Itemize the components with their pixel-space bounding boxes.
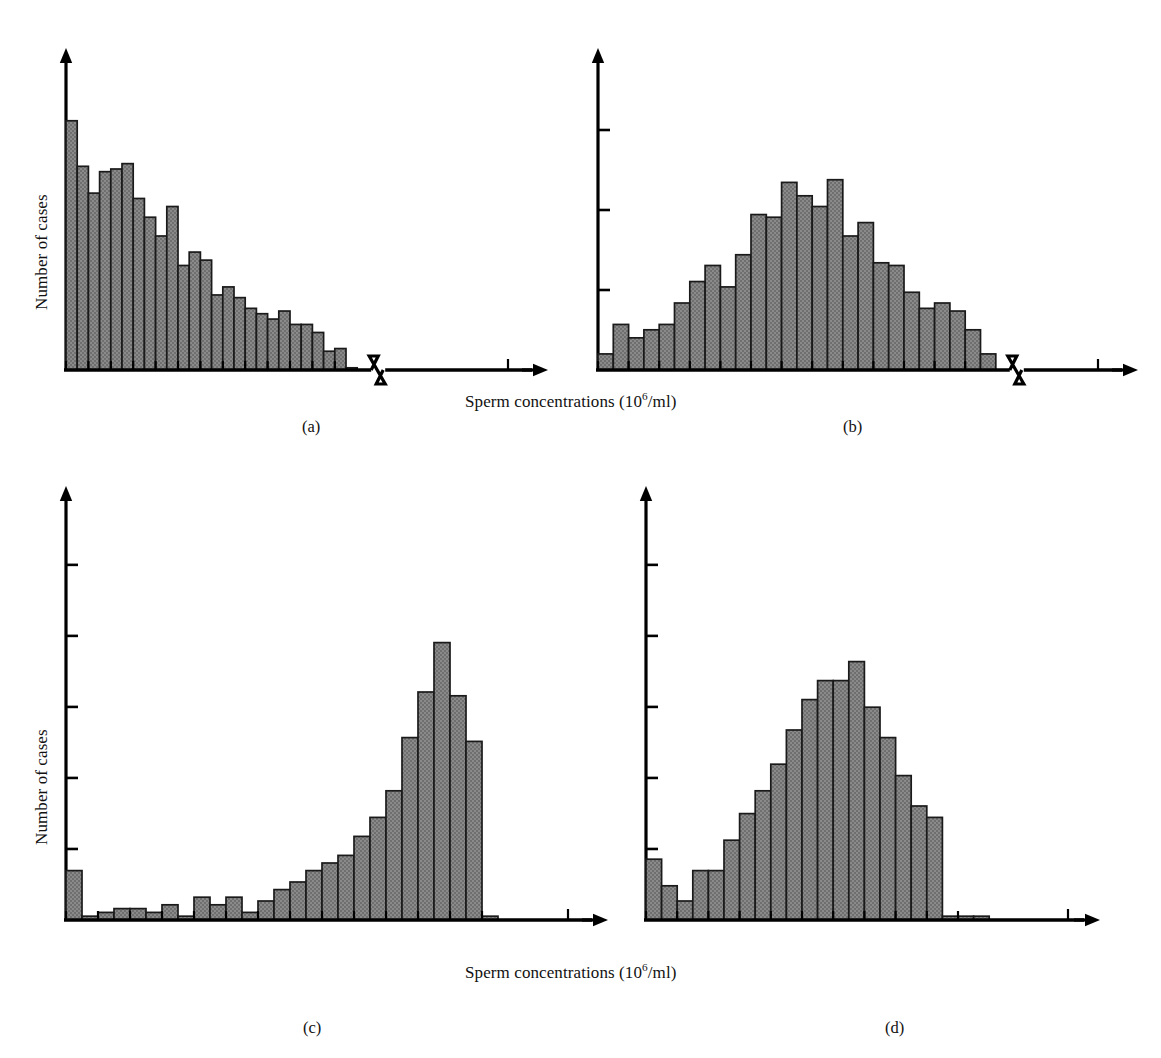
bar (864, 707, 880, 920)
bar (981, 354, 996, 370)
panel-d (600, 470, 1161, 950)
y-axis-label-a: Number of cases (32, 194, 52, 310)
x-axis-arrow-d (1074, 914, 1100, 926)
bar (880, 738, 896, 920)
bar (965, 330, 980, 370)
bar (873, 263, 888, 370)
bar (200, 260, 211, 370)
bar (708, 871, 724, 920)
bar (766, 217, 781, 370)
bar (156, 236, 167, 370)
bar (245, 308, 256, 370)
bar (223, 287, 234, 370)
bar (306, 871, 322, 920)
bar (301, 324, 312, 370)
bar (843, 236, 858, 370)
bar (858, 223, 873, 370)
y-axis-c (60, 486, 72, 920)
bar (786, 730, 802, 920)
bar (370, 817, 386, 920)
histogram-c (0, 470, 620, 950)
bar (919, 308, 934, 370)
bars-a (66, 121, 357, 370)
y-axis-a-head (60, 48, 72, 63)
x-axis-arrow-b (1112, 364, 1138, 376)
bar (935, 303, 950, 370)
bar (354, 836, 370, 920)
bar (833, 681, 849, 920)
bar (646, 859, 662, 920)
bar (66, 871, 82, 920)
bars-c (66, 643, 498, 920)
bar (194, 897, 210, 920)
bar (751, 215, 766, 370)
bar (904, 292, 919, 370)
bar (950, 311, 965, 370)
caption-b: (b) (843, 417, 862, 437)
bar (613, 324, 628, 370)
y-axis-d (640, 486, 652, 920)
bar (114, 909, 130, 920)
x-axis-label-bottom-main: Sperm concentrations (10 (465, 963, 642, 982)
y-axis-label-c: Number of cases (32, 729, 52, 845)
bar (133, 198, 144, 370)
bar (629, 338, 644, 370)
bar (100, 172, 111, 370)
bar (189, 252, 200, 370)
bar (122, 164, 133, 370)
bar (77, 166, 88, 370)
bar (677, 901, 693, 920)
x-axis-arrow-a-head (533, 364, 548, 376)
bar (693, 871, 709, 920)
bar (234, 298, 245, 370)
bar (812, 207, 827, 370)
bar (736, 255, 751, 370)
bar (144, 217, 155, 370)
bar (927, 817, 943, 920)
bar (896, 776, 912, 920)
bar (450, 696, 466, 920)
bar (167, 207, 178, 370)
bar (386, 791, 402, 920)
bar (675, 303, 690, 370)
bar (705, 265, 720, 370)
x-axis-arrow-d-head (1085, 914, 1100, 926)
bar (644, 330, 659, 370)
bar (889, 265, 904, 370)
bar (312, 332, 323, 370)
bar (659, 324, 674, 370)
y-axis-c-head (60, 486, 72, 501)
bar (290, 882, 306, 920)
bar (828, 180, 843, 370)
bar (740, 814, 756, 920)
bar (268, 319, 279, 370)
caption-a: (a) (302, 417, 320, 437)
bar (598, 354, 613, 370)
bar (338, 855, 354, 920)
x-axis-label-bottom: Sperm concentrations (106/ml) (465, 963, 677, 983)
bar (88, 193, 99, 370)
histogram-a (0, 30, 580, 400)
panel-a (0, 30, 580, 400)
bar (162, 905, 178, 920)
bar (290, 324, 301, 370)
y-axis-b-head (592, 48, 604, 63)
axis-break-a (369, 356, 385, 384)
x-axis-label-top: Sperm concentrations (106/ml) (465, 392, 677, 412)
bar (797, 196, 812, 370)
bar (322, 863, 338, 920)
bar (690, 282, 705, 370)
bar (274, 890, 290, 920)
x-axis-label-top-main: Sperm concentrations (10 (465, 392, 642, 411)
bar (178, 265, 189, 370)
histogram-d (600, 470, 1161, 950)
histogram-b (578, 30, 1161, 400)
bar (335, 349, 346, 370)
bar (782, 182, 797, 370)
bar (130, 909, 146, 920)
bar (256, 314, 267, 370)
x-axis-arrow-a (522, 364, 548, 376)
bar (755, 791, 771, 920)
bar (210, 905, 226, 920)
panel-b (578, 30, 1161, 400)
